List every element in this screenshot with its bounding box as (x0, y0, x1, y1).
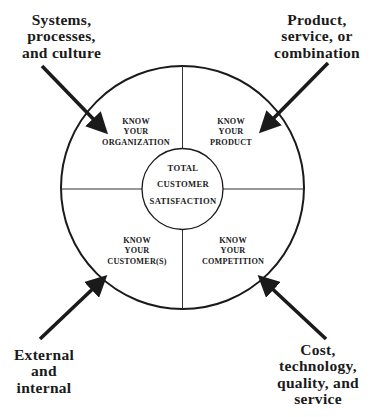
quadrant-line: KNOW (96, 117, 176, 127)
quadrant-line: COMPETITION (197, 257, 269, 267)
quadrant-line: PRODUCT (200, 138, 262, 148)
label-line: technology, (270, 358, 366, 374)
quadrant-line: KNOW (197, 236, 269, 246)
label-line: and (10, 363, 78, 379)
label-line: External (10, 347, 78, 363)
center-line: CUSTOMER (142, 176, 224, 192)
quadrant-line: YOUR (197, 246, 269, 256)
label-line: service (270, 391, 366, 407)
center-line: TOTAL (142, 160, 224, 176)
label-line: and culture (14, 45, 109, 61)
label-competition-factors: Cost, technology, quality, and service (270, 342, 366, 407)
arrow-product (266, 63, 328, 126)
quadrant-line: KNOW (200, 117, 262, 127)
quadrant-line: KNOW (99, 236, 175, 246)
arrow-systems (42, 66, 101, 127)
label-line: Cost, (270, 342, 366, 358)
label-line: Systems, (14, 12, 109, 28)
label-line: service, or (269, 28, 365, 44)
center-label: TOTAL CUSTOMER SATISFACTION (142, 160, 224, 209)
arrow-competition (265, 282, 326, 339)
quadrant-organization: KNOW YOUR ORGANIZATION (96, 117, 176, 148)
label-systems: Systems, processes, and culture (14, 12, 109, 61)
quadrant-competition: KNOW YOUR COMPETITION (197, 236, 269, 267)
quadrant-line: YOUR (200, 127, 262, 137)
arrow-customers (40, 282, 100, 339)
label-line: Product, (269, 12, 365, 28)
quadrant-line: YOUR (99, 246, 175, 256)
label-customer-type: External and internal (10, 347, 78, 396)
label-line: processes, (14, 28, 109, 44)
quadrant-customers: KNOW YOUR CUSTOMER(S) (99, 236, 175, 267)
label-product-type: Product, service, or combination (269, 12, 365, 61)
label-line: internal (10, 380, 78, 396)
quadrant-line: YOUR (96, 127, 176, 137)
quadrant-line: ORGANIZATION (96, 138, 176, 148)
label-line: combination (269, 45, 365, 61)
label-line: quality, and (270, 375, 366, 391)
tcs-diagram: Systems, processes, and culture Product,… (0, 0, 370, 417)
quadrant-line: CUSTOMER(S) (99, 257, 175, 267)
center-line: SATISFACTION (142, 193, 224, 209)
quadrant-product: KNOW YOUR PRODUCT (200, 117, 262, 148)
